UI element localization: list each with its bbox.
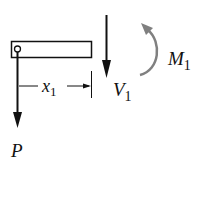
beam: [12, 42, 92, 58]
load-point-circle: [15, 46, 21, 52]
distance-label-x1: x1: [41, 76, 57, 99]
moment-arrow-m1: [140, 23, 157, 75]
diagram-svg: P x1 V1 M1: [0, 0, 199, 201]
shear-label-v1: V1: [113, 79, 132, 104]
shear-arrow-v1: [102, 15, 111, 78]
free-body-diagram: P x1 V1 M1: [0, 0, 199, 201]
moment-label-m1: M1: [167, 48, 191, 73]
load-arrow-p: [13, 52, 22, 128]
load-label-p: P: [10, 140, 23, 161]
